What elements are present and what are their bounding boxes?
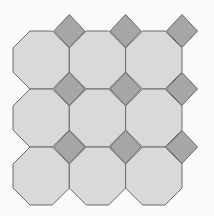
octagon-tile — [69, 147, 125, 205]
tiling-figure — [0, 0, 214, 216]
octagon-tile — [13, 89, 69, 147]
octagon-square-tiling — [0, 0, 214, 216]
octagon-tile — [69, 31, 125, 89]
octagon-tile — [13, 147, 69, 205]
octagon-tile — [126, 31, 182, 89]
octagon-tile — [126, 89, 182, 147]
octagon-tile — [13, 31, 69, 89]
octagon-tile — [126, 147, 182, 205]
octagon-tile — [69, 89, 125, 147]
